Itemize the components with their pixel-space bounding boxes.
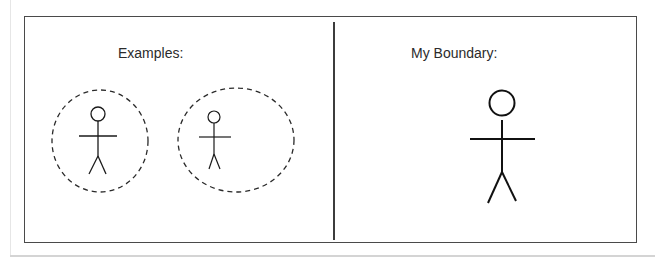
- stick-figure-icon: [199, 111, 231, 169]
- example-2: [178, 88, 294, 192]
- dashed-boundary-circle: [52, 90, 148, 192]
- dashed-boundary-ellipse: [178, 88, 294, 192]
- diagram-artwork: [0, 0, 655, 258]
- my-boundary-figure: [470, 91, 535, 204]
- head: [490, 91, 515, 116]
- stick-figure-icon: [79, 107, 117, 174]
- example-1: [52, 90, 148, 192]
